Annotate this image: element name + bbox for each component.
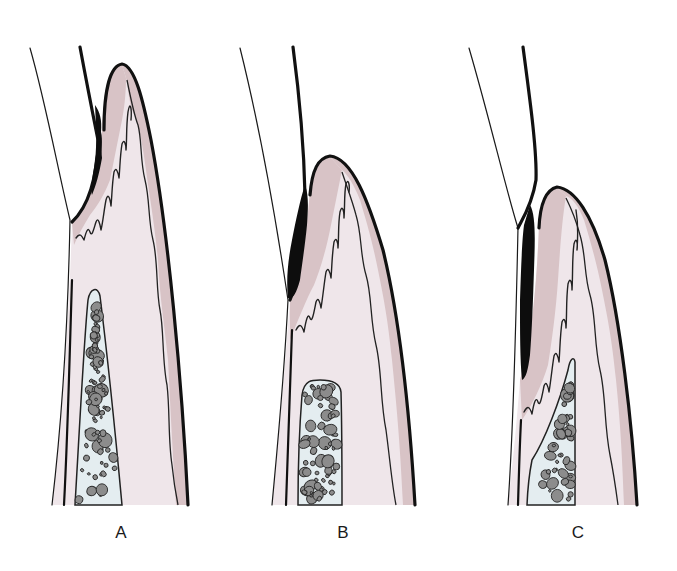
- trabecula: [96, 484, 108, 496]
- panel-a: A: [30, 47, 188, 542]
- trabecula: [303, 460, 309, 466]
- panel-b: B: [240, 47, 415, 542]
- trabecula: [320, 488, 324, 491]
- tooth-enamel-line: [469, 48, 518, 505]
- panel-label-c: C: [572, 523, 584, 542]
- trabecula: [332, 446, 335, 450]
- panel-label-a: A: [115, 523, 127, 542]
- root-surface-line: [518, 47, 536, 228]
- trabecula: [105, 447, 110, 452]
- trabecula: [320, 384, 326, 391]
- trabecula: [92, 416, 95, 420]
- trabecula: [93, 381, 97, 385]
- trabecula: [89, 355, 94, 359]
- trabecula: [92, 474, 98, 480]
- trabecula: [317, 385, 320, 388]
- trabecula: [94, 322, 97, 325]
- trabecula: [311, 386, 316, 391]
- trabecula: [551, 489, 563, 502]
- trabecula: [112, 465, 118, 471]
- trabecula: [95, 339, 98, 342]
- trabecula: [310, 461, 315, 466]
- trabecula: [569, 475, 573, 478]
- periodontal-diagram: A B C: [0, 0, 677, 571]
- trabecula: [318, 395, 324, 400]
- panel-c: C: [469, 47, 637, 542]
- trabecula: [105, 406, 111, 412]
- trabecula: [87, 472, 90, 475]
- panel-label-b: B: [337, 523, 348, 542]
- trabecula: [94, 398, 97, 401]
- trabecula: [100, 430, 106, 437]
- trabecula: [315, 471, 319, 475]
- trabecula: [558, 454, 562, 457]
- trabecula: [552, 444, 556, 447]
- trabecula: [100, 416, 102, 419]
- trabecula: [97, 384, 102, 388]
- trabecula: [333, 482, 336, 485]
